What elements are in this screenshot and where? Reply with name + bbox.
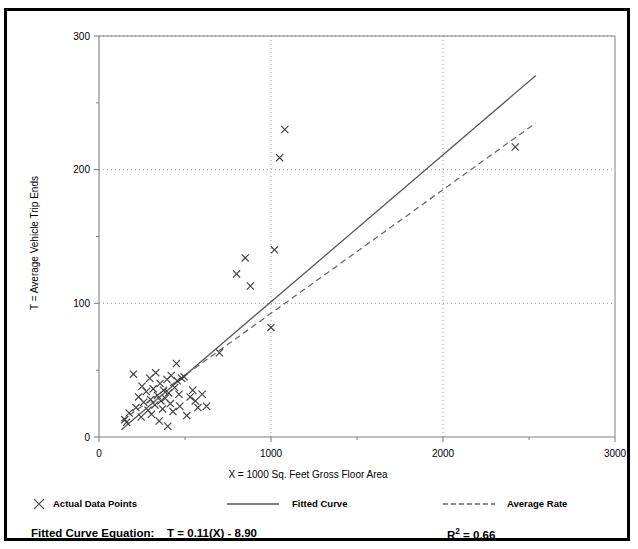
data-point-marker [173, 360, 180, 367]
data-point-marker [138, 413, 145, 420]
r2-number: = 0.66 [460, 529, 496, 541]
scatter-plot: 01002003000100020003000 T = Average Vehi… [7, 11, 633, 544]
equation-value: T = 0.11(X) - 8.90 [167, 527, 257, 539]
legend-marker-fitted-curve [225, 496, 281, 512]
y-tick-label: 0 [84, 432, 90, 443]
data-point-marker [192, 397, 199, 404]
axis-layer [94, 36, 615, 442]
data-point-marker [156, 417, 163, 424]
data-point-marker [199, 391, 206, 398]
data-point-marker [271, 246, 278, 253]
data-point-marker [164, 423, 171, 430]
r-squared-value: R2 = 0.66 [447, 527, 495, 541]
fitted-curve-equation: Fitted Curve Equation: T = 0.11(X) - 8.9… [31, 527, 257, 539]
y-tick-label: 100 [73, 298, 90, 309]
data-point-marker [233, 270, 240, 277]
grid-layer [99, 36, 615, 437]
data-point-marker [150, 385, 157, 392]
data-point-marker [276, 154, 283, 161]
x-tick-label: 2000 [432, 448, 455, 459]
chart-legend: Actual Data Points Fitted Curve Average … [7, 495, 633, 519]
data-point-marker [132, 404, 139, 411]
data-point-marker [151, 401, 158, 408]
legend-label-data-points: Actual Data Points [53, 498, 137, 509]
data-point-marker [167, 400, 174, 407]
data-point-marker [203, 403, 210, 410]
chart-title-bar [7, 3, 638, 11]
data-point-marker [169, 408, 176, 415]
data-point-marker [143, 388, 150, 395]
legend-marker-data-points [31, 496, 47, 512]
data-point-marker [159, 405, 166, 412]
data-point-marker [148, 411, 155, 418]
data-point-marker [176, 403, 183, 410]
data-point-marker [194, 404, 201, 411]
data-point-marker [183, 412, 190, 419]
data-point-marker [178, 375, 185, 382]
equation-label: Fitted Curve Equation: [31, 527, 154, 539]
y-tick-label: 200 [73, 164, 90, 175]
x-tick-label: 1000 [260, 448, 283, 459]
chart-frame: 01002003000100020003000 T = Average Vehi… [4, 8, 630, 541]
data-point-marker [281, 126, 288, 133]
y-axis-label: T = Average Vehicle Trip Ends [29, 176, 40, 310]
x-tick-label: 3000 [604, 448, 627, 459]
data-point-marker [247, 282, 254, 289]
data-point-marker [152, 369, 159, 376]
x-tick-label: 0 [96, 448, 102, 459]
data-point-marker [187, 393, 194, 400]
data-point-marker [189, 387, 196, 394]
legend-label-average-rate: Average Rate [507, 498, 567, 509]
data-point-marker [130, 371, 137, 378]
data-point-marker [156, 380, 163, 387]
data-point-marker [242, 254, 249, 261]
x-axis-label: X = 1000 Sq. Feet Gross Floor Area [228, 469, 388, 480]
data-point-marker [140, 399, 147, 406]
data-point-marker [175, 391, 182, 398]
chart-footer: Fitted Curve Equation: T = 0.11(X) - 8.9… [7, 523, 633, 549]
legend-marker-average-rate [441, 496, 497, 512]
y-tick-label: 300 [73, 31, 90, 42]
legend-label-fitted-curve: Fitted Curve [292, 498, 347, 509]
data-point-marker [138, 383, 145, 390]
data-point-marker [174, 377, 181, 384]
data-point-marker [147, 396, 154, 403]
data-point-marker [512, 143, 519, 150]
